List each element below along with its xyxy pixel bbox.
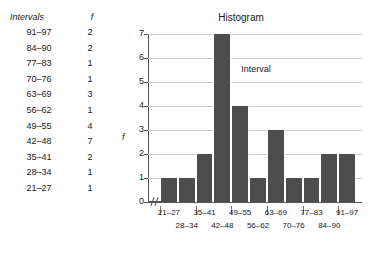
- cell-frequency: 1: [70, 72, 110, 88]
- cell-interval: 70–76: [8, 72, 70, 88]
- histogram-bar: [231, 106, 249, 202]
- histogram-bar: [213, 34, 231, 202]
- table-row: 77–83 1: [8, 56, 112, 72]
- x-tick-label: 49–55: [225, 208, 255, 217]
- bar-slot: [303, 34, 321, 202]
- table-row: 42–48 7: [8, 134, 112, 150]
- table-row: 21–27 1: [8, 181, 112, 197]
- table-row: 56–62 1: [8, 103, 112, 119]
- bar-series: [160, 34, 356, 202]
- histogram-bar: [196, 154, 214, 202]
- y-tick-label: 5: [132, 76, 144, 86]
- histogram-figure: Intervals f 91–97 2 84–90 2 77–83 1 70–7…: [0, 0, 374, 261]
- y-axis-label: f: [122, 132, 125, 142]
- cell-interval: 77–83: [8, 56, 70, 72]
- x-axis-tick-labels: 21–2728–3435–4142–4849–5556–6263–6970–76…: [148, 208, 368, 248]
- cell-frequency: 3: [70, 87, 110, 103]
- histogram-bar: [320, 154, 338, 202]
- y-tick-mark: [144, 34, 148, 35]
- cell-interval: 28–34: [8, 165, 70, 181]
- y-tick-mark: [144, 154, 148, 155]
- cell-interval: 91–97: [8, 25, 70, 41]
- y-tick-mark: [144, 178, 148, 179]
- frequency-table: Intervals f 91–97 2 84–90 2 77–83 1 70–7…: [8, 12, 112, 197]
- bar-slot: [267, 34, 285, 202]
- table-row: 84–90 2: [8, 41, 112, 57]
- y-tick-label: 3: [132, 124, 144, 134]
- histogram-bar: [249, 178, 267, 202]
- histogram-bar: [303, 178, 321, 202]
- y-tick-label: 4: [132, 100, 144, 110]
- x-tick-label: 91–97: [332, 208, 362, 217]
- cell-frequency: 2: [70, 150, 110, 166]
- y-tick-label: 1: [132, 172, 144, 182]
- column-header-frequency: f: [72, 12, 112, 22]
- table-row: 28–34 1: [8, 165, 112, 181]
- cell-interval: 35–41: [8, 150, 70, 166]
- y-tick-mark: [144, 106, 148, 107]
- histogram-chart: Histogram f 01234567 21–2728–3435–4142–4…: [112, 12, 370, 252]
- cell-interval: 63–69: [8, 87, 70, 103]
- cell-frequency: 1: [70, 165, 110, 181]
- cell-frequency: 4: [70, 119, 110, 135]
- x-axis-label: Interval: [148, 64, 364, 74]
- bar-slot: [178, 34, 196, 202]
- x-tick-label: 56–62: [243, 221, 273, 230]
- cell-frequency: 1: [70, 181, 110, 197]
- cell-frequency: 1: [70, 56, 110, 72]
- bar-slot: [338, 34, 356, 202]
- x-tick-label: 35–41: [190, 208, 220, 217]
- table-header-row: Intervals f: [8, 12, 112, 25]
- bar-slot: [160, 34, 178, 202]
- y-tick-mark: [144, 82, 148, 83]
- y-tick-mark: [144, 58, 148, 59]
- gridline: [148, 202, 362, 203]
- y-tick-mark: [144, 202, 148, 203]
- table-row: 63–69 3: [8, 87, 112, 103]
- y-tick-label: 2: [132, 148, 144, 158]
- bar-slot: [320, 34, 338, 202]
- cell-frequency: 7: [70, 134, 110, 150]
- cell-interval: 56–62: [8, 103, 70, 119]
- x-tick-label: 21–27: [154, 208, 184, 217]
- y-tick-label: 7: [132, 28, 144, 38]
- bar-slot: [249, 34, 267, 202]
- x-tick-label: 63–69: [261, 208, 291, 217]
- table-row: 91–97 2: [8, 25, 112, 41]
- plot-area: 01234567 21–2728–3435–4142–4849–5556–626…: [148, 34, 356, 202]
- x-tick-label: 77–83: [296, 208, 326, 217]
- y-tick-label: 6: [132, 52, 144, 62]
- histogram-bar: [338, 154, 356, 202]
- x-tick-label: 28–34: [172, 221, 202, 230]
- table-row: 49–55 4: [8, 119, 112, 135]
- cell-interval: 21–27: [8, 181, 70, 197]
- table-row: 35–41 2: [8, 150, 112, 166]
- cell-frequency: 2: [70, 25, 110, 41]
- y-tick-label: 0: [132, 196, 144, 206]
- bar-slot: [213, 34, 231, 202]
- bar-slot: [285, 34, 303, 202]
- chart-title: Histogram: [112, 12, 370, 23]
- column-header-intervals: Intervals: [8, 12, 72, 22]
- cell-interval: 84–90: [8, 41, 70, 57]
- x-tick-label: 42–48: [207, 221, 237, 230]
- cell-frequency: 1: [70, 103, 110, 119]
- cell-frequency: 2: [70, 41, 110, 57]
- cell-interval: 42–48: [8, 134, 70, 150]
- bar-slot: [231, 34, 249, 202]
- histogram-bar: [285, 178, 303, 202]
- y-axis-line: [148, 34, 149, 202]
- x-tick-label: 84–90: [314, 221, 344, 230]
- bar-slot: [196, 34, 214, 202]
- y-tick-mark: [144, 130, 148, 131]
- x-tick-label: 70–76: [279, 221, 309, 230]
- table-row: 70–76 1: [8, 72, 112, 88]
- cell-interval: 49–55: [8, 119, 70, 135]
- histogram-bar: [178, 178, 196, 202]
- histogram-bar: [267, 130, 285, 202]
